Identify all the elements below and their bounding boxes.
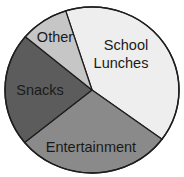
pie-chart: School Lunches Entertainment Snacks Othe… <box>0 0 184 177</box>
label-school-lunches-line1: School <box>104 37 148 53</box>
label-other: Other <box>37 29 73 45</box>
label-school-lunches-line2: Lunches <box>94 55 149 71</box>
label-snacks: Snacks <box>16 82 64 98</box>
label-entertainment: Entertainment <box>46 139 136 155</box>
